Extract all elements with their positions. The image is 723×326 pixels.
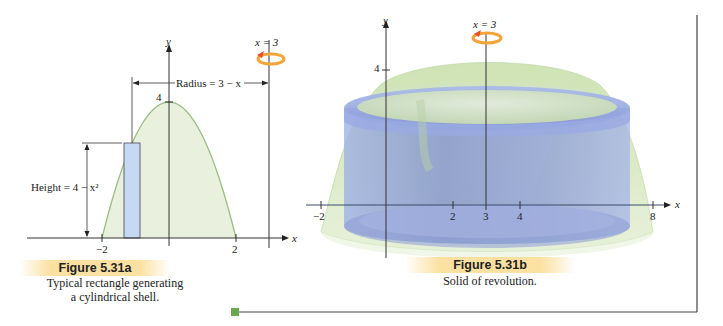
typical-rectangle [124, 143, 140, 238]
fig-b-y-axis-label: y [383, 15, 388, 26]
fig-b-x-axis-label: x [675, 199, 680, 210]
fig-a-x-tick-2: 2 [232, 244, 238, 255]
fig-b-x-tick-3: 3 [483, 211, 489, 222]
fig-a-y-axis-label: y [166, 36, 171, 47]
fig-b-x-tick-4: 4 [517, 211, 523, 222]
fig-a-x-axis-label: x [292, 233, 297, 244]
fig-a-y-tick-4: 4 [156, 92, 162, 103]
fig-a-rotation-axis-label: x = 3 [255, 37, 278, 48]
fig-b-x-tick-8: 8 [650, 211, 656, 222]
figure-b-caption: Solid of revolution. [405, 274, 575, 288]
height-label: Height = 4 − x² [31, 182, 99, 193]
fig-b-x-tick-neg2: −2 [313, 211, 325, 222]
radius-label: Radius = 3 − x [176, 78, 241, 89]
fig-a-x-tick-neg2: −2 [96, 244, 108, 255]
figure-a-caption-line1: Typical rectangle generating [20, 276, 210, 290]
figure-a-caption-line2: a cylindrical shell. [20, 290, 210, 304]
figure-b-title: Figure 5.31b [405, 257, 575, 273]
fig-b-rotation-axis-label: x = 3 [473, 19, 496, 30]
frame-accent-square [231, 308, 239, 316]
fig-b-x-tick-2: 2 [450, 211, 456, 222]
figure-a-caption: Typical rectangle generating a cylindric… [20, 276, 210, 304]
figure-a-title: Figure 5.31a [20, 260, 170, 276]
solid-of-revolution [321, 63, 653, 259]
fig-b-y-tick-4: 4 [374, 63, 380, 74]
